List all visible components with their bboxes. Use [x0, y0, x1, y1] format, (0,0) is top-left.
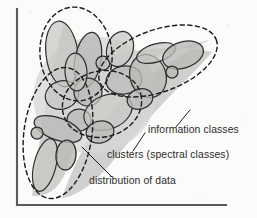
annotation-label-distribution-of-data: distribution of data	[89, 175, 176, 186]
cluster-15	[31, 127, 43, 139]
annotation-label-clusters-spectral-classes: clusters (spectral classes)	[107, 149, 229, 160]
cluster-12	[166, 66, 178, 78]
diagram-svg: information classesclusters (spectral cl…	[0, 0, 257, 218]
annotation-label-information-classes: information classes	[148, 124, 239, 135]
figure-container: information classesclusters (spectral cl…	[0, 0, 257, 218]
